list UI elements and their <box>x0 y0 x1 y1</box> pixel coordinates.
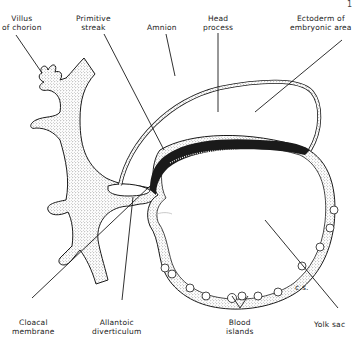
label-ectoderm: Ectoderm of embryonic area <box>290 14 352 32</box>
label-allantoic-diverticulum: Allantoic diverticulum <box>92 318 141 336</box>
label-line: diverticulum <box>92 327 141 336</box>
label-line: islands <box>226 327 254 336</box>
page-mark: 1 <box>347 0 352 9</box>
label-line: Allantoic <box>92 318 141 327</box>
label-cs: c.s. <box>295 283 309 292</box>
label-line: Primitive <box>76 14 111 23</box>
label-line: Cloacal <box>12 318 55 327</box>
label-line: Head <box>203 14 233 23</box>
label-line: process <box>203 23 233 32</box>
label-line: Amnion <box>147 23 177 32</box>
label-line: Yolk sac <box>314 320 345 329</box>
connecting-stalk <box>31 58 160 284</box>
label-line: streak <box>76 23 111 32</box>
label-amnion: Amnion <box>147 23 177 32</box>
label-line: Blood <box>226 318 254 327</box>
label-line: Villus <box>2 14 42 23</box>
label-line: embryonic area <box>290 23 352 32</box>
allantoic-diverticulum <box>108 184 150 196</box>
label-head-process: Head process <box>203 14 233 32</box>
label-line: membrane <box>12 327 55 336</box>
label-primitive-streak: Primitive streak <box>76 14 111 32</box>
label-line: of chorion <box>2 23 42 32</box>
label-blood-islands: Blood islands <box>226 318 254 336</box>
label-cloacal-membrane: Cloacal membrane <box>12 318 55 336</box>
label-line: Ectoderm of <box>290 14 352 23</box>
label-yolk-sac: Yolk sac <box>314 320 345 329</box>
label-villus-of-chorion: Villus of chorion <box>2 14 42 32</box>
